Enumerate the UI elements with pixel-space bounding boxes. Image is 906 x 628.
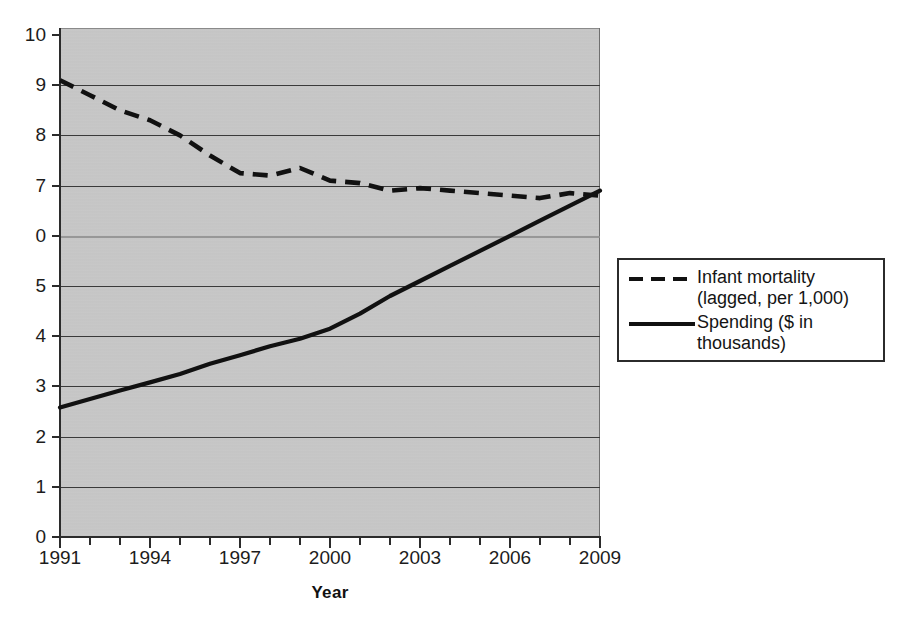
gridline [60,186,600,187]
x-axis-minor-tick [119,537,121,545]
y-axis-tick-label: 10 [6,25,46,44]
figure-container: 109870543210 199119941997200020032006200… [0,0,906,628]
legend-item-spending: Spending ($ in thousands) [629,312,813,354]
legend: Infant mortality (lagged, per 1,000) Spe… [617,258,885,362]
y-axis-tick-label: 3 [6,376,46,395]
gridline [60,236,600,238]
gridline [60,85,600,86]
x-axis-minor-tick [449,537,451,545]
legend-item-infant-mortality: Infant mortality (lagged, per 1,000) [629,267,849,309]
x-axis-line [59,536,601,538]
x-axis-minor-tick [209,537,211,545]
y-axis-tick-label: 1 [6,477,46,496]
y-axis-tick-label: 0 [6,226,46,245]
y-axis-line [59,28,61,538]
y-axis-tick-label: 5 [6,276,46,295]
x-axis-minor-tick [179,537,181,545]
gridline [60,135,600,136]
plot-right-edge [599,28,600,538]
x-axis-tick-label: 1994 [110,548,190,568]
x-axis-minor-tick [359,537,361,545]
legend-swatch-dashed-icon [629,269,695,289]
y-axis-tick-label: 4 [6,326,46,345]
gridline [60,286,600,287]
x-axis-minor-tick [539,537,541,545]
gridline [60,386,600,387]
plot-top-edge [60,28,600,29]
gridline [60,437,600,438]
plot-texture-overlay [60,28,600,537]
gridline [60,336,600,337]
legend-label-infant-mortality: Infant mortality (lagged, per 1,000) [697,267,849,309]
x-axis-minor-tick [569,537,571,545]
x-axis-minor-tick [479,537,481,545]
x-axis-tick-label: 1991 [20,548,100,568]
x-axis-tick-label: 2000 [290,548,370,568]
x-axis-tick-label: 2009 [560,548,640,568]
x-axis-minor-tick [389,537,391,545]
x-axis-title: Year [0,583,660,603]
legend-label-spending: Spending ($ in thousands) [697,312,813,354]
y-axis-tick-label: 9 [6,75,46,94]
x-axis-tick-label: 2003 [380,548,460,568]
gridline [60,487,600,488]
plot-area [60,28,600,537]
x-axis-minor-tick [299,537,301,545]
x-axis-minor-tick [89,537,91,545]
y-axis-tick-label: 0 [6,527,46,546]
legend-swatch-solid-icon [629,314,695,334]
y-axis-tick-label: 7 [6,176,46,195]
x-axis-minor-tick [269,537,271,545]
cut-off-caption-sliver [8,620,768,628]
x-axis-tick-label: 2006 [470,548,550,568]
x-axis-tick-label: 1997 [200,548,280,568]
y-axis-tick-label: 8 [6,125,46,144]
y-axis-tick-label: 2 [6,427,46,446]
